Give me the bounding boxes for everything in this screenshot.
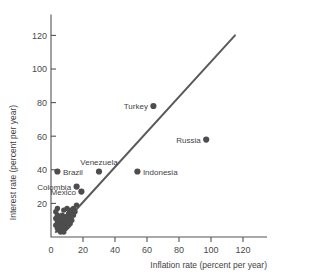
y-tick-label-100: 100 (32, 64, 47, 74)
tick-marks (51, 35, 243, 242)
x-tick-label-120: 120 (235, 245, 250, 255)
y-tick-label-20: 20 (37, 199, 47, 209)
data-point (61, 229, 66, 234)
y-tick-label-40: 40 (37, 165, 47, 175)
data-point (56, 224, 61, 229)
x-tick-label-60: 60 (142, 245, 152, 255)
forty-five-degree-line (56, 35, 235, 232)
data-point (61, 207, 66, 212)
chart-canvas: 02040608010012020406080100120 TurkeyRuss… (0, 0, 319, 280)
data-point (74, 202, 79, 207)
axes (51, 15, 267, 237)
x-tick-label-0: 0 (48, 245, 53, 255)
x-tick-label-40: 40 (110, 245, 120, 255)
point-label-mexico: Mexico (51, 188, 77, 197)
data-point-venezuela (96, 168, 102, 174)
data-point (55, 206, 60, 211)
data-point (66, 223, 71, 228)
point-label-russia: Russia (176, 136, 201, 145)
data-point-turkey (150, 103, 156, 109)
y-tick-label-60: 60 (37, 132, 47, 142)
point-label-brazil: Brazil (63, 168, 83, 177)
scatter-chart: 02040608010012020406080100120 TurkeyRuss… (0, 0, 319, 280)
y-axis-title: Interest rate (percent per year) (8, 105, 18, 220)
axis-lines (51, 15, 267, 237)
y-tick-label-120: 120 (32, 31, 47, 41)
data-point (56, 216, 61, 221)
data-point-brazil (54, 168, 60, 174)
data-point-mexico (78, 189, 84, 195)
data-point (71, 213, 76, 218)
reference-line (56, 35, 235, 232)
x-tick-label-100: 100 (203, 245, 218, 255)
point-label-indonesia: Indonesia (143, 168, 178, 177)
y-tick-label-80: 80 (37, 98, 47, 108)
x-tick-label-80: 80 (174, 245, 184, 255)
data-point-indonesia (134, 168, 140, 174)
point-label-turkey: Turkey (124, 102, 148, 111)
x-axis-title: Inflation rate (percent per year) (150, 260, 267, 270)
data-point-russia (203, 137, 209, 143)
point-label-venezuela: Venezuela (80, 158, 118, 167)
point-labels: TurkeyRussiaVenezuelaBrazilColombiaMexic… (37, 102, 201, 197)
x-tick-label-20: 20 (78, 245, 88, 255)
